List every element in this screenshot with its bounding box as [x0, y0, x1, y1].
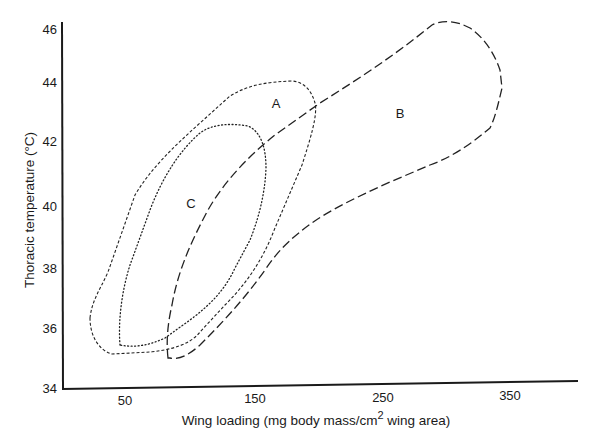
region-c-outline	[119, 124, 266, 346]
region-b-outline	[167, 22, 502, 359]
y-tick-46: 46	[43, 22, 57, 37]
region-b-label: B	[396, 106, 405, 121]
x-tick-labels: 50 150 250 350	[118, 388, 521, 408]
region-c-label: C	[186, 196, 195, 211]
y-tick-38: 38	[43, 261, 57, 276]
y-tick-34: 34	[43, 381, 57, 396]
region-a-outline	[90, 81, 316, 354]
y-tick-42: 42	[43, 134, 57, 149]
y-tick-44: 44	[43, 75, 57, 90]
y-axis-title: Thoracic temperature (°C)	[22, 132, 37, 288]
x-tick-150: 150	[244, 391, 266, 406]
x-tick-350: 350	[499, 388, 521, 403]
chart: 46 44 42 40 38 36 34 50 150 250 350 Wing…	[0, 0, 592, 447]
y-axis-line	[62, 22, 63, 389]
x-tick-50: 50	[118, 393, 132, 408]
y-tick-40: 40	[43, 199, 57, 214]
region-a-label: A	[272, 96, 281, 111]
x-axis-title-tail: wing area)	[384, 413, 451, 428]
x-axis-title: Wing loading (mg body mass/cm2 wing area…	[182, 409, 451, 428]
y-tick-labels: 46 44 42 40 38 36 34	[43, 22, 57, 396]
x-axis-title-main: Wing loading (mg body mass/cm	[182, 413, 378, 428]
x-tick-250: 250	[372, 390, 394, 405]
y-tick-36: 36	[43, 321, 57, 336]
